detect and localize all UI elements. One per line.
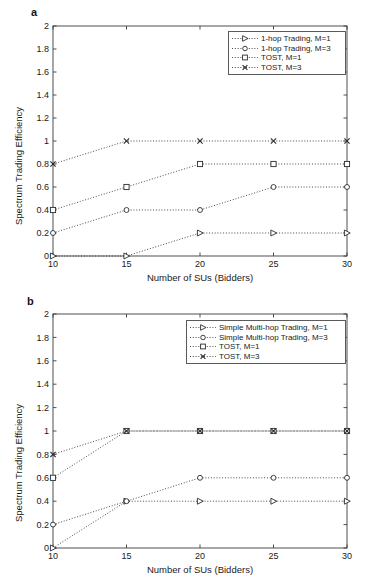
y-tick-label: 1.4 <box>36 90 49 100</box>
circle-marker <box>201 335 206 340</box>
legend-item-label: TOST, M=3 <box>261 63 302 73</box>
x-tick-label: 15 <box>121 551 131 561</box>
y-tick-label: 1.2 <box>36 403 49 413</box>
x-tick-label: 30 <box>342 551 352 561</box>
x-tick-label: 20 <box>195 259 205 269</box>
series-line <box>53 431 347 454</box>
legend-item: TOST, M=3 <box>190 352 342 362</box>
y-tick-label: 1.6 <box>36 356 49 366</box>
y-tick-label: 1.8 <box>36 333 49 343</box>
y-tick-label: 0.4 <box>36 205 49 215</box>
circle-marker <box>51 522 56 527</box>
circle-marker <box>124 499 129 504</box>
legend-sample-circle <box>232 44 258 53</box>
circle-marker <box>271 475 276 480</box>
series-line <box>53 431 347 478</box>
legend-item: TOST, M=1 <box>232 53 342 63</box>
circle-marker <box>345 475 350 480</box>
circle-marker <box>124 208 129 213</box>
y-tick-label: 1.4 <box>36 379 49 389</box>
x-tick-label: 10 <box>48 259 58 269</box>
x-tick-label: 30 <box>342 259 352 269</box>
legend-item-label: TOST, M=1 <box>261 53 302 63</box>
y-tick-label: 0.8 <box>36 450 49 460</box>
legend-item: 1-hop Trading, M=3 <box>232 44 342 54</box>
square-marker <box>124 184 129 189</box>
legend-item: Simple Multi-hop Trading, M=1 <box>190 323 342 333</box>
y-tick-label: 0.8 <box>36 159 49 169</box>
square-marker <box>50 207 55 212</box>
x-tick-label: 15 <box>121 259 131 269</box>
x-tick-label: 25 <box>268 551 278 561</box>
legend-item: 1-hop Trading, M=1 <box>232 34 342 44</box>
y-tick-label: 1.2 <box>36 113 49 123</box>
y-tick-label: 1 <box>44 426 49 436</box>
legend-sample-triangle-right <box>232 34 258 43</box>
legend-sample-square <box>190 342 216 351</box>
legend-sample-triangle-right <box>190 323 216 332</box>
y-tick-label: 1.6 <box>36 67 49 77</box>
square-marker <box>344 161 349 166</box>
x-tick-label: 20 <box>195 551 205 561</box>
y-tick-label: 0.2 <box>36 228 49 238</box>
series-line <box>53 164 347 210</box>
legend-item: Simple Multi-hop Trading, M=3 <box>190 333 342 343</box>
y-tick-label: 0.6 <box>36 182 49 192</box>
legend-item: TOST, M=3 <box>232 63 342 73</box>
legend-sample-cross <box>232 63 258 72</box>
series-line <box>53 141 347 164</box>
y-tick-label: 1.8 <box>36 44 49 54</box>
square-marker <box>201 344 206 349</box>
triangle-right-marker <box>271 230 277 236</box>
legend-sample-circle <box>190 333 216 342</box>
triangle-right-marker <box>271 498 277 504</box>
legend-sample-square <box>232 53 258 62</box>
legend-item-label: 1-hop Trading, M=1 <box>261 34 331 44</box>
legend-item-label: Simple Multi-hop Trading, M=1 <box>219 323 328 333</box>
x-tick-label: 10 <box>48 551 58 561</box>
circle-marker <box>198 475 203 480</box>
square-marker <box>271 161 276 166</box>
legend-item: TOST, M=1 <box>190 342 342 352</box>
y-tick-label: 0.4 <box>36 496 49 506</box>
x-tick-label: 25 <box>268 259 278 269</box>
circle-marker <box>271 185 276 190</box>
triangle-right-marker <box>201 325 206 331</box>
square-marker <box>50 475 55 480</box>
triangle-right-marker <box>197 230 203 236</box>
y-tick-label: 1 <box>44 136 49 146</box>
y-tick-label: 0.6 <box>36 473 49 483</box>
legend-item-label: Simple Multi-hop Trading, M=3 <box>219 333 328 343</box>
triangle-right-marker <box>243 36 248 42</box>
series-line <box>53 501 347 548</box>
circle-marker <box>198 208 203 213</box>
circle-marker <box>345 185 350 190</box>
square-marker <box>243 55 248 60</box>
square-marker <box>197 161 202 166</box>
legend-sample-cross <box>190 352 216 361</box>
legend-item-label: TOST, M=3 <box>219 352 260 362</box>
figure-container: a Spectrum Trading Efficiency Number of … <box>0 0 371 587</box>
legend-item-label: TOST, M=1 <box>219 342 260 352</box>
y-tick-label: 2 <box>44 309 49 319</box>
panel-b-legend: Simple Multi-hop Trading, M=1Simple Mult… <box>186 320 346 364</box>
panel-a-legend: 1-hop Trading, M=11-hop Trading, M=3TOST… <box>228 31 346 75</box>
y-tick-label: 2 <box>44 21 49 31</box>
circle-marker <box>51 231 56 236</box>
legend-item-label: 1-hop Trading, M=3 <box>261 44 331 54</box>
circle-marker <box>243 46 248 51</box>
y-tick-label: 0.2 <box>36 520 49 530</box>
triangle-right-marker <box>197 498 203 504</box>
